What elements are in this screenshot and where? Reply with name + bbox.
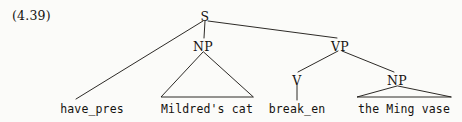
edge-vp-to-np2 (342, 51, 394, 72)
terminal-break-en: break_en (269, 104, 326, 116)
edge-s-to-have-pres (76, 21, 203, 99)
node-label-v: V (292, 75, 301, 88)
node-label-np-subject: NP (193, 41, 213, 54)
node-label-vp: VP (331, 41, 349, 54)
terminal-the-ming-vase: the Ming vase (358, 104, 450, 116)
terminal-have-pres: have_pres (60, 104, 124, 116)
edge-vp-to-v (298, 51, 338, 72)
terminal-mildreds-cat: Mildred's cat (161, 104, 253, 116)
triangle-np1 (161, 52, 253, 97)
edge-s-to-vp (208, 21, 337, 38)
figure-canvas: (4.39) S NP VP V NP have_pres Mildred's … (0, 0, 462, 122)
node-label-s: S (201, 11, 210, 24)
node-label-np-object: NP (387, 75, 407, 88)
